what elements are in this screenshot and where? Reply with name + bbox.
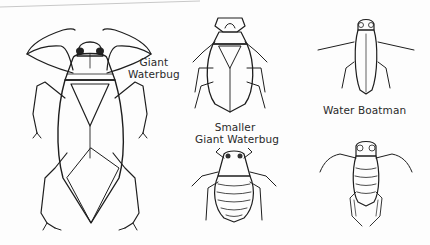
water-boatman-ventral-figure bbox=[316, 136, 416, 228]
giant-waterbug-figure bbox=[15, 18, 165, 233]
label-smaller-giant-waterbug-line1: Smaller bbox=[195, 121, 275, 133]
label-giant-waterbug-line1: Giant bbox=[128, 56, 180, 68]
page-edge-line bbox=[0, 0, 430, 10]
label-smaller-giant-waterbug: Smaller Giant Waterbug bbox=[195, 121, 275, 145]
label-smaller-giant-waterbug-line2: Giant Waterbug bbox=[195, 133, 275, 145]
smaller-giant-waterbug-ventral-figure bbox=[188, 148, 280, 226]
label-giant-waterbug: Giant Waterbug bbox=[128, 56, 180, 80]
water-boatman-dorsal-figure bbox=[316, 14, 416, 96]
label-giant-waterbug-line2: Waterbug bbox=[128, 68, 180, 80]
label-water-boatman: Water Boatman bbox=[323, 104, 406, 116]
smaller-giant-waterbug-dorsal-figure bbox=[185, 12, 275, 120]
illustration-canvas: Giant Waterbug Smaller Giant Wat bbox=[0, 0, 430, 245]
